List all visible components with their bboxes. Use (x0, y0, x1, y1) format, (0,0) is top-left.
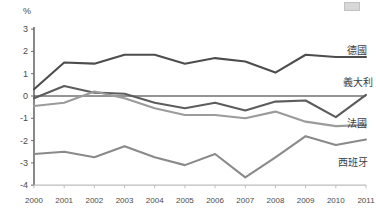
y-tick-label: -2 (12, 136, 28, 146)
x-tick-label: 2011 (349, 196, 376, 206)
series-label-0: 德國 (347, 45, 367, 57)
y-tick-label: -4 (12, 180, 28, 190)
series-label-3: 西班牙 (338, 157, 368, 169)
y-tick-label: 2 (12, 46, 28, 56)
x-tick-label: 2000 (17, 196, 51, 206)
x-tick-label: 2003 (108, 196, 142, 206)
x-tick-label: 2008 (258, 196, 292, 206)
line-chart: % 3210-1-2-3-4 2000200120022003200420052… (0, 0, 376, 220)
series-label-2: 法國 (347, 118, 367, 130)
series-line-3 (34, 136, 366, 177)
x-tick-label: 2004 (138, 196, 172, 206)
x-tick-label: 2009 (289, 196, 323, 206)
series-line-2 (34, 92, 366, 127)
y-tick-label: -3 (12, 158, 28, 168)
x-tick-label: 2001 (47, 196, 81, 206)
y-tick-label: -1 (12, 113, 28, 123)
y-tick-label: 0 (12, 91, 28, 101)
x-tick-label: 2010 (319, 196, 353, 206)
series-line-0 (34, 55, 366, 90)
series-label-1: 義大利 (343, 77, 373, 89)
chart-plot-area (0, 0, 376, 220)
x-tick-label: 2005 (168, 196, 202, 206)
x-tick-label: 2007 (228, 196, 262, 206)
x-tick-label: 2006 (198, 196, 232, 206)
series-line-1 (34, 86, 366, 117)
x-tick-label: 2002 (77, 196, 111, 206)
y-tick-label: 3 (12, 24, 28, 34)
y-tick-label: 1 (12, 69, 28, 79)
